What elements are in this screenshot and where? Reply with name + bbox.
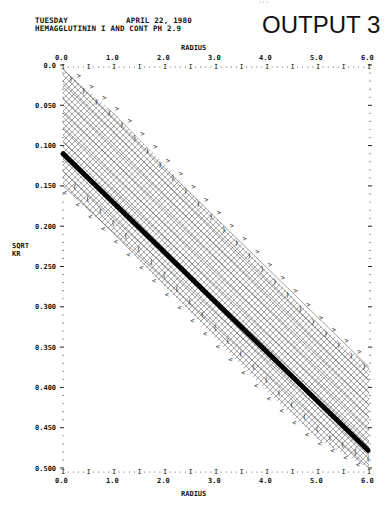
x-tick-top: I (316, 63, 320, 71)
x-tick-label-bottom: 6.0 (361, 477, 374, 485)
x-tick-top: I (367, 63, 371, 71)
svg-text:): ) (222, 226, 226, 234)
x-tick-label-top: 6.0 (361, 54, 374, 62)
svg-text:): ) (311, 318, 315, 326)
svg-text:>: > (191, 183, 195, 191)
svg-text:(: ( (149, 258, 153, 266)
svg-text:<: < (254, 382, 258, 390)
svg-text:>: > (370, 359, 374, 367)
x-tick-label-bottom: 4.0 (259, 477, 272, 485)
svg-text:(: ( (353, 448, 357, 456)
y-tick-label: 0.050 (35, 102, 56, 110)
svg-text:>: > (128, 117, 132, 125)
svg-text:<: < (75, 201, 79, 209)
svg-text:(: ( (187, 298, 191, 306)
svg-text:(: ( (226, 337, 230, 345)
svg-text:): ) (132, 134, 136, 142)
svg-text:): ) (260, 265, 264, 273)
x-axis-title-top: RADIUS (181, 44, 206, 52)
svg-text:): ) (285, 291, 289, 299)
svg-text:(: ( (213, 324, 217, 332)
y-tick-label: 0.100 (35, 142, 56, 150)
x-tick-top: I (112, 63, 116, 71)
x-tick-bottom: I (316, 468, 320, 476)
svg-text:<: < (165, 291, 169, 299)
svg-text:>: > (281, 274, 285, 282)
svg-text:(: ( (340, 441, 344, 449)
y-tick-label: 0.300 (35, 303, 56, 311)
y-tick-label: 0.0 (43, 62, 56, 70)
x-tick-top: I (265, 63, 269, 71)
svg-text:): ) (171, 174, 175, 182)
x-tick-label-top: 2.0 (157, 54, 170, 62)
svg-text:>: > (319, 314, 323, 322)
svg-text:>: > (357, 348, 361, 356)
x-tick-bottom: I (112, 468, 116, 476)
x-tick-top: I (342, 63, 346, 71)
svg-text:): ) (234, 239, 238, 247)
x-tick-bottom: I (265, 468, 269, 476)
x-tick-label-bottom: 0.0 (55, 477, 68, 485)
x-tick-bottom: I (342, 468, 346, 476)
svg-text:<: < (228, 356, 232, 364)
x-tick-label-bottom: 1.0 (106, 477, 119, 485)
x-tick-top: I (240, 63, 244, 71)
y-tick-label: 0.350 (35, 344, 56, 352)
x-tick-top: I (291, 63, 295, 71)
svg-text:): ) (324, 330, 328, 338)
svg-text:): ) (247, 252, 251, 260)
svg-text:): ) (145, 147, 149, 155)
x-tick-top: I (214, 63, 218, 71)
svg-text:<: < (139, 264, 143, 272)
svg-text:(: ( (302, 413, 306, 421)
svg-text:): ) (120, 121, 124, 129)
x-tick-label-top: 5.0 (310, 54, 323, 62)
svg-text:>: > (115, 105, 119, 113)
svg-text:(: ( (289, 401, 293, 409)
svg-text:): ) (69, 76, 73, 84)
svg-text:>: > (140, 130, 144, 138)
svg-text:>: > (179, 170, 183, 178)
svg-text:(: ( (200, 311, 204, 319)
svg-text:<: < (88, 213, 92, 221)
svg-text:>: > (77, 72, 81, 80)
svg-text:(: ( (162, 271, 166, 279)
svg-text:<: < (267, 395, 271, 403)
y-tick-label: 0.250 (35, 263, 56, 271)
y-tick-label: 0.450 (35, 424, 56, 432)
svg-text:<: < (330, 447, 334, 455)
svg-text:<: < (152, 277, 156, 285)
svg-text:>: > (344, 337, 348, 345)
svg-text:<: < (216, 343, 220, 351)
y-tick-label: 0.500 (35, 465, 56, 473)
x-tick-bottom: I (61, 468, 65, 476)
svg-text:(: ( (124, 232, 128, 240)
svg-text:>: > (102, 94, 106, 102)
svg-text:): ) (94, 98, 98, 106)
svg-text:<: < (305, 431, 309, 439)
x-tick-label-top: 0.0 (55, 54, 68, 62)
svg-text:(: ( (136, 245, 140, 253)
x-tick-top: I (163, 63, 167, 71)
svg-text:<: < (356, 461, 360, 469)
svg-text:(: ( (175, 285, 179, 293)
svg-text:(: ( (251, 363, 255, 371)
svg-text:>: > (230, 222, 234, 230)
x-tick-bottom: I (138, 468, 142, 476)
y-tick-label: 0.400 (35, 384, 56, 392)
svg-text:): ) (349, 352, 353, 360)
svg-text:(: ( (315, 425, 319, 433)
svg-text:<: < (101, 225, 105, 233)
x-tick-bottom: I (87, 468, 91, 476)
svg-text:): ) (209, 213, 213, 221)
x-tick-top: I (138, 63, 142, 71)
svg-text:<: < (63, 189, 67, 197)
svg-text:>: > (268, 261, 272, 269)
x-tick-top: I (87, 63, 91, 71)
svg-text:<: < (279, 407, 283, 415)
svg-text:>: > (89, 83, 93, 91)
svg-text:): ) (81, 87, 85, 95)
svg-text:>: > (306, 301, 310, 309)
svg-text:<: < (292, 419, 296, 427)
svg-text:): ) (158, 161, 162, 169)
